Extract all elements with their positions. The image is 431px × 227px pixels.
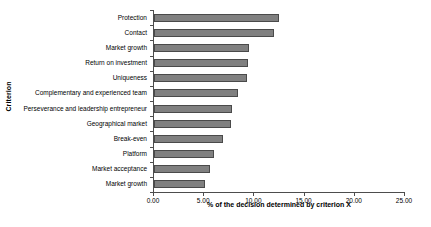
bar bbox=[154, 150, 214, 158]
x-axis-tick-mark bbox=[153, 193, 154, 196]
y-axis-tick-mark bbox=[150, 177, 153, 178]
x-axis-tick-mark bbox=[404, 193, 405, 196]
y-axis-tick-label: Platform bbox=[123, 149, 147, 159]
y-axis-tick-label: Market growth bbox=[106, 179, 147, 189]
y-axis-tick-label: Contact bbox=[125, 28, 147, 38]
bar bbox=[154, 29, 274, 37]
y-axis-tick-labels: ProtectionContactMarket growthReturn on … bbox=[16, 10, 150, 192]
x-axis-spine bbox=[153, 192, 405, 193]
y-axis-tick-label: Market acceptance bbox=[92, 164, 147, 174]
y-axis-tick-label: Protection bbox=[118, 13, 147, 23]
y-axis-tick-mark bbox=[150, 10, 153, 11]
bar bbox=[154, 44, 249, 52]
y-axis-tick-label: Geographical market bbox=[87, 119, 147, 129]
bar bbox=[154, 120, 231, 128]
y-axis-tick-label: Uniqueness bbox=[113, 73, 147, 83]
x-axis-tick-mark bbox=[304, 193, 305, 196]
bar bbox=[154, 180, 205, 188]
y-axis-tick-label: Market growth bbox=[106, 43, 147, 53]
bar bbox=[154, 165, 210, 173]
y-axis-tick-mark bbox=[150, 147, 153, 148]
bar bbox=[154, 105, 232, 113]
plot-area: 0.005.0010.0015.0020.0025.00 bbox=[153, 10, 404, 192]
bar bbox=[154, 14, 279, 22]
y-axis-title-text: Criterion bbox=[5, 81, 12, 111]
bar bbox=[154, 135, 223, 143]
y-axis-title: Criterion bbox=[0, 0, 16, 192]
y-axis-tick-label: Perseverance and leadership entrepreneur bbox=[23, 104, 147, 114]
y-axis-tick-mark bbox=[150, 116, 153, 117]
x-axis-tick-mark bbox=[253, 193, 254, 196]
horizontal-bar-chart: Criterion ProtectionContactMarket growth… bbox=[0, 0, 431, 227]
y-axis-tick-mark bbox=[150, 25, 153, 26]
y-axis-tick-label: Complementary and experienced team bbox=[35, 88, 147, 98]
x-axis-tick-mark bbox=[354, 193, 355, 196]
y-axis-tick-mark bbox=[150, 56, 153, 57]
y-axis-tick-mark bbox=[150, 131, 153, 132]
y-axis-tick-mark bbox=[150, 101, 153, 102]
y-axis-tick-mark bbox=[150, 71, 153, 72]
y-axis-tick-label: Return on investment bbox=[85, 58, 147, 68]
bar bbox=[154, 74, 247, 82]
bar bbox=[154, 89, 238, 97]
bar bbox=[154, 59, 248, 67]
y-axis-tick-label: Break-even bbox=[114, 134, 147, 144]
y-axis-tick-mark bbox=[150, 162, 153, 163]
y-axis-tick-mark bbox=[150, 86, 153, 87]
x-axis-tick-mark bbox=[203, 193, 204, 196]
y-axis-tick-mark bbox=[150, 40, 153, 41]
x-axis-title: % of the decision determined by criterio… bbox=[153, 201, 405, 208]
